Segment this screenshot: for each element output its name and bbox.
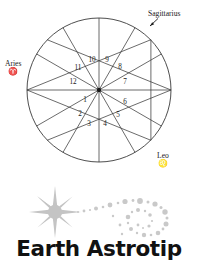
sign-name-sagittarius: Sagittarius: [148, 9, 180, 18]
house-number-6: 6: [123, 98, 127, 106]
house-number-5: 5: [116, 111, 120, 119]
house-number-10: 10: [88, 56, 96, 64]
house-number-4: 4: [103, 120, 107, 128]
brand-wordmark: Earth Astrotip: [0, 236, 198, 261]
sign-label-leo: Leo ♌: [157, 152, 169, 168]
sunburst-icon: [29, 186, 81, 238]
house-number-1: 1: [83, 96, 87, 104]
dot-spiral-icon: [77, 198, 169, 237]
house-number-12: 12: [69, 78, 77, 86]
sign-label-sagittarius: Sagittarius: [148, 10, 180, 18]
house-number-9: 9: [105, 56, 109, 64]
astrology-chart-page: 1 2 3 4 5 6 7 8 9 10 11 12 Aries ♈ Sagit…: [0, 0, 198, 271]
house-number-2: 2: [78, 110, 82, 118]
brand-logo: Earth Astrotip: [0, 176, 198, 271]
house-number-7: 7: [123, 78, 127, 86]
house-number-11: 11: [75, 64, 82, 72]
house-wheel-chart: 1 2 3 4 5 6 7 8 9 10 11 12 Aries ♈ Sagit…: [0, 0, 198, 176]
house-number-3: 3: [87, 120, 91, 128]
sagittarius-pointer-icon: [150, 19, 158, 27]
wheel-center-point: [97, 88, 101, 92]
aries-glyph-icon: ♈: [5, 68, 21, 76]
sign-label-aries: Aries ♈: [5, 60, 21, 76]
leo-glyph-icon: ♌: [157, 160, 169, 168]
house-number-8: 8: [118, 63, 122, 71]
wheel-diagram: 1 2 3 4 5 6 7 8 9 10 11 12: [0, 0, 198, 176]
